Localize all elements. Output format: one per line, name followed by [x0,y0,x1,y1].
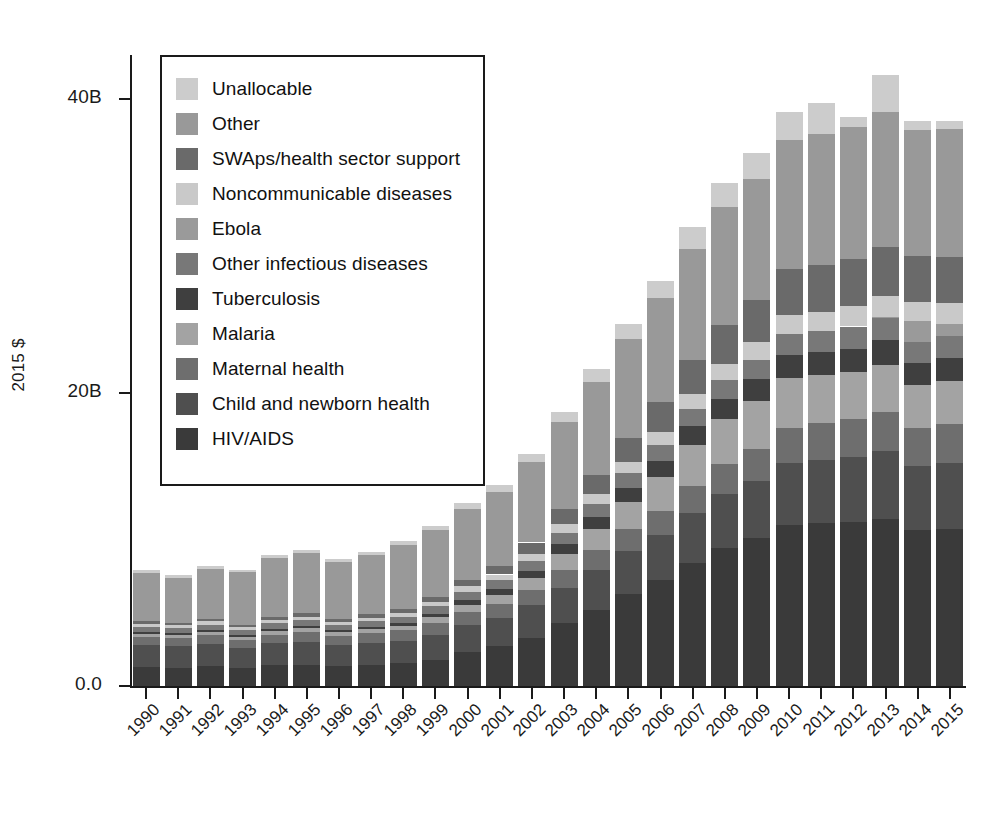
bar-segment [647,298,674,402]
legend-item-2[interactable]: SWAps/health sector support [176,141,483,176]
bar-2006[interactable] [647,281,674,686]
bar-segment [551,412,578,422]
legend-item-8[interactable]: Maternal health [176,351,483,386]
bar-segment [358,665,385,686]
bar-segment [808,312,835,331]
bar-segment [840,522,867,686]
bar-2007[interactable] [679,227,706,686]
bar-segment [808,423,835,460]
bar-1995[interactable] [293,550,320,686]
bar-2012[interactable] [840,117,867,686]
bar-segment [904,363,931,385]
bar-2009[interactable] [743,153,770,686]
x-tick [563,688,565,699]
bar-segment [808,523,835,686]
legend-item-4[interactable]: Ebola [176,211,483,246]
legend-item-label: Noncommunicable diseases [212,183,452,205]
legend-item-10[interactable]: HIV/AIDS [176,421,483,456]
bar-2015[interactable] [936,121,963,686]
bar-segment [325,645,352,666]
bar-segment [454,580,481,587]
bar-segment [583,517,610,529]
bar-segment [390,626,417,631]
legend-swatch-icon [176,323,198,345]
bar-segment [165,578,192,623]
bar-segment [197,632,224,636]
bar-segment [325,636,352,645]
bar-1998[interactable] [390,541,417,686]
bar-1996[interactable] [325,559,352,686]
bar-2005[interactable] [615,324,642,686]
bar-segment [486,646,513,686]
bar-segment [133,624,160,627]
x-tick [531,688,533,699]
bar-segment [229,668,256,686]
bar-segment [615,339,642,438]
legend-item-9[interactable]: Child and newborn health [176,386,483,421]
bar-segment [197,619,224,622]
bar-segment [293,617,320,620]
bar-segment [325,625,352,630]
bar-segment [583,475,610,494]
bar-segment [808,134,835,265]
bar-2000[interactable] [454,503,481,686]
legend-swatch-icon [176,148,198,170]
bar-segment [293,553,320,613]
legend-item-7[interactable]: Malaria [176,316,483,351]
bar-1999[interactable] [422,526,449,686]
bar-segment [518,571,545,578]
bar-segment [229,570,256,573]
bar-segment [808,460,835,523]
x-tick [177,688,179,699]
legend-item-0[interactable]: Unallocable [176,71,483,106]
bar-1993[interactable] [229,570,256,687]
bar-segment [583,382,610,475]
legend-item-3[interactable]: Noncommunicable diseases [176,176,483,211]
bar-2010[interactable] [776,112,803,687]
bar-segment [165,638,192,646]
bar-segment [840,327,867,349]
x-tick [820,688,822,699]
legend-swatch-icon [176,253,198,275]
bar-2011[interactable] [808,103,835,686]
bar-segment [679,513,706,563]
bar-segment [165,625,192,628]
bar-segment [872,317,899,318]
bar-segment [711,464,738,493]
bar-2004[interactable] [583,369,610,686]
bar-1991[interactable] [165,575,192,686]
bar-segment [872,112,899,248]
x-tick [852,688,854,699]
bar-segment [808,331,835,352]
bar-segment [936,336,963,358]
bar-segment [422,526,449,531]
bar-2013[interactable] [872,75,899,686]
bar-segment [551,422,578,509]
bar-1997[interactable] [358,552,385,686]
legend-item-6[interactable]: Tuberculosis [176,281,483,316]
bar-segment [583,369,610,381]
bar-segment [711,325,738,364]
bar-1990[interactable] [133,570,160,686]
legend-item-1[interactable]: Other [176,106,483,141]
bar-2008[interactable] [711,183,738,686]
legend-item-label: Malaria [212,323,275,345]
legend-item-5[interactable]: Other infectious diseases [176,246,483,281]
bar-segment [165,646,192,667]
bar-segment [229,637,256,640]
bar-segment [776,140,803,269]
bar-segment [936,424,963,463]
bar-segment [551,533,578,545]
bar-segment [583,494,610,504]
bar-2003[interactable] [551,412,578,686]
bar-1994[interactable] [261,555,288,686]
bar-2001[interactable] [486,485,513,686]
bar-2002[interactable] [518,454,545,686]
bar-1992[interactable] [197,566,224,686]
bar-segment [390,641,417,664]
x-tick [242,688,244,699]
x-axis-line [130,686,966,688]
bar-2014[interactable] [904,121,931,686]
bar-segment [454,605,481,612]
bar-segment [133,573,160,621]
